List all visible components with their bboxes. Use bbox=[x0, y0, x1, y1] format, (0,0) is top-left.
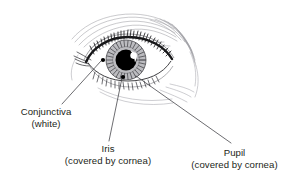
leader-line-pupil bbox=[136, 76, 231, 143]
marker-dot-conjunctiva bbox=[101, 58, 105, 62]
label-iris: Iris (covered by cornea) bbox=[50, 143, 166, 166]
label-conjunctiva-line1: Conjunctiva bbox=[2, 106, 90, 118]
pupil-highlight-spot bbox=[130, 52, 137, 59]
label-conjunctiva-line2: (white) bbox=[2, 118, 90, 130]
leader-line-iris bbox=[109, 78, 122, 141]
label-pupil-line2: (covered by cornea) bbox=[176, 159, 293, 171]
label-iris-line2: (covered by cornea) bbox=[50, 155, 166, 167]
label-pupil: Pupil (covered by cornea) bbox=[176, 147, 293, 170]
leader-line-conjunctiva bbox=[62, 61, 101, 104]
label-pupil-line1: Pupil bbox=[176, 147, 293, 159]
label-conjunctiva: Conjunctiva (white) bbox=[2, 106, 90, 129]
label-iris-line1: Iris bbox=[50, 143, 166, 155]
eye-anatomy-figure: Conjunctiva (white) Iris (covered by cor… bbox=[0, 0, 293, 180]
marker-dot-iris bbox=[121, 75, 125, 79]
